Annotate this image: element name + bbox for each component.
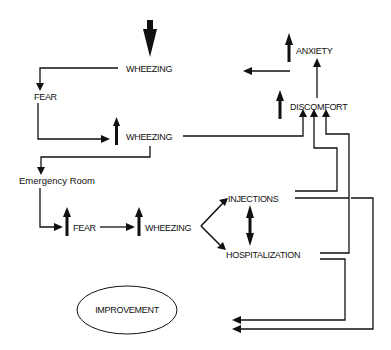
edge-wheezing3-fork bbox=[201, 198, 228, 250]
increase-arrow-icon bbox=[276, 90, 284, 119]
edge-wheezing2-discomfort bbox=[183, 109, 307, 136]
edge-wheezing1-fear1 bbox=[36, 68, 118, 91]
decrease-arrow-icon bbox=[143, 20, 157, 57]
edge-hospitalization-improvement bbox=[232, 259, 345, 324]
flowchart-canvas: WHEEZING FEAR WHEEZING Emergency Room FE… bbox=[0, 0, 391, 350]
node-wheezing-1: WHEEZING bbox=[126, 64, 172, 74]
edge-injections-improvement bbox=[232, 198, 373, 333]
node-wheezing-3: WHEEZING bbox=[145, 223, 191, 233]
node-discomfort: DISCOMFORT bbox=[290, 102, 348, 112]
node-fear-1: FEAR bbox=[34, 92, 58, 102]
edge-emergency-fear2 bbox=[40, 188, 63, 231]
node-improvement: IMPROVEMENT bbox=[95, 305, 160, 315]
node-emergency-room: Emergency Room bbox=[19, 175, 95, 186]
increase-arrow-icon bbox=[135, 207, 143, 236]
node-fear-2: FEAR bbox=[73, 223, 97, 233]
edge-wheezing2-emergency bbox=[37, 146, 150, 175]
edge-anxiety-wheezing1 bbox=[243, 67, 290, 75]
increase-arrow-icon bbox=[113, 117, 120, 145]
node-wheezing-2: WHEEZING bbox=[126, 132, 172, 142]
edge-fear2-wheezing3 bbox=[100, 223, 135, 231]
node-hospitalization: HOSPITALIZATION bbox=[226, 250, 300, 260]
node-injections: INJECTIONS bbox=[228, 194, 279, 204]
increase-arrow-icon bbox=[285, 33, 293, 62]
edge-hospitalization-discomfort bbox=[320, 109, 349, 253]
edge-fear1-wheezing2 bbox=[38, 103, 110, 143]
node-anxiety: ANXIETY bbox=[296, 46, 333, 56]
edge-injections-discomfort bbox=[295, 109, 337, 191]
increase-arrow-icon bbox=[63, 207, 71, 236]
bidirectional-arrow-icon bbox=[246, 205, 254, 246]
edge-discomfort-anxiety bbox=[313, 58, 321, 98]
